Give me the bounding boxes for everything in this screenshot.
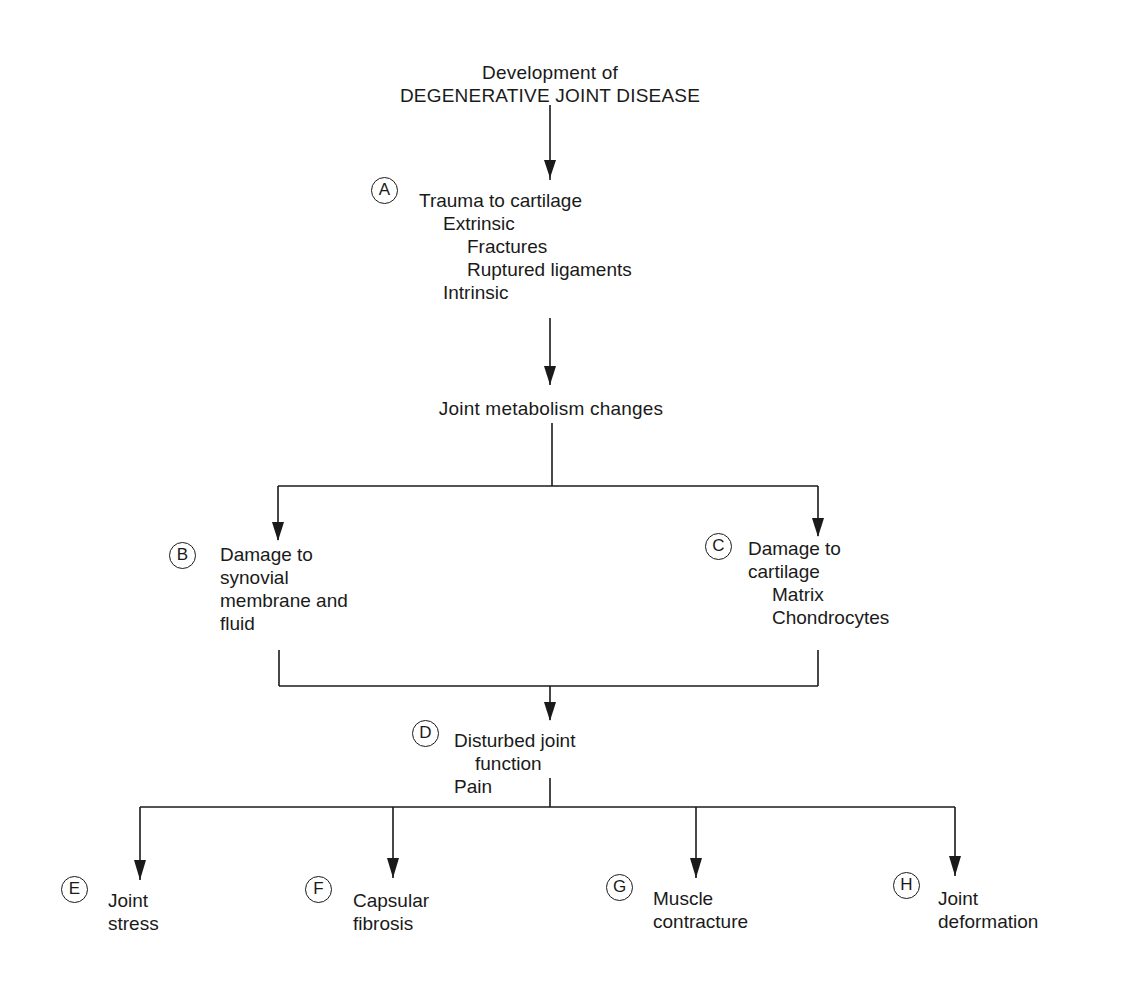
node-b-line: synovial — [220, 566, 348, 589]
node-c-line: Matrix — [748, 583, 889, 606]
node-f-line: Capsular — [353, 889, 429, 912]
node-d-line: Disturbed joint — [454, 729, 575, 752]
node-a-line: Intrinsic — [419, 281, 632, 304]
node-a-line: Trauma to cartilage — [419, 189, 632, 212]
node-h-line: deformation — [938, 910, 1038, 933]
node-h-line: Joint — [938, 887, 1038, 910]
node-g-line: contracture — [653, 910, 748, 933]
node-c-line: Chondrocytes — [748, 606, 889, 629]
node-a-line: Fractures — [419, 235, 632, 258]
node-b-badge: B — [169, 542, 196, 569]
node-c-line: cartilage — [748, 560, 889, 583]
node-g-badge: G — [606, 874, 633, 901]
node-d-badge: D — [412, 720, 439, 747]
node-d: Disturbed joint function Pain — [454, 729, 575, 798]
node-e-line: stress — [108, 912, 159, 935]
node-e: Joint stress — [108, 889, 159, 935]
node-c-line: Damage to — [748, 537, 889, 560]
connector-lines — [0, 0, 1130, 986]
node-h: Joint deformation — [938, 887, 1038, 933]
node-g: Muscle contracture — [653, 887, 748, 933]
title-line-2: DEGENERATIVE JOINT DISEASE — [400, 84, 700, 107]
node-d-line: function — [454, 752, 575, 775]
node-a-line: Extrinsic — [419, 212, 632, 235]
node-b-line: Damage to — [220, 543, 348, 566]
node-f-badge: F — [305, 876, 332, 903]
node-e-line: Joint — [108, 889, 159, 912]
node-a-line: Ruptured ligaments — [419, 258, 632, 281]
node-f-line: fibrosis — [353, 912, 429, 935]
node-b-line: membrane and — [220, 589, 348, 612]
node-d-line: Pain — [454, 775, 575, 798]
node-metabolism: Joint metabolism changes — [439, 397, 663, 420]
node-a-badge: A — [371, 177, 398, 204]
node-b-line: fluid — [220, 612, 348, 635]
node-a: Trauma to cartilage Extrinsic Fractures … — [419, 189, 632, 304]
node-c: Damage to cartilage Matrix Chondrocytes — [748, 537, 889, 629]
node-b: Damage to synovial membrane and fluid — [220, 543, 348, 635]
node-g-line: Muscle — [653, 887, 748, 910]
node-e-badge: E — [61, 876, 88, 903]
title-line-1: Development of — [482, 61, 618, 84]
node-c-badge: C — [705, 533, 732, 560]
node-f: Capsular fibrosis — [353, 889, 429, 935]
node-h-badge: H — [893, 872, 920, 899]
